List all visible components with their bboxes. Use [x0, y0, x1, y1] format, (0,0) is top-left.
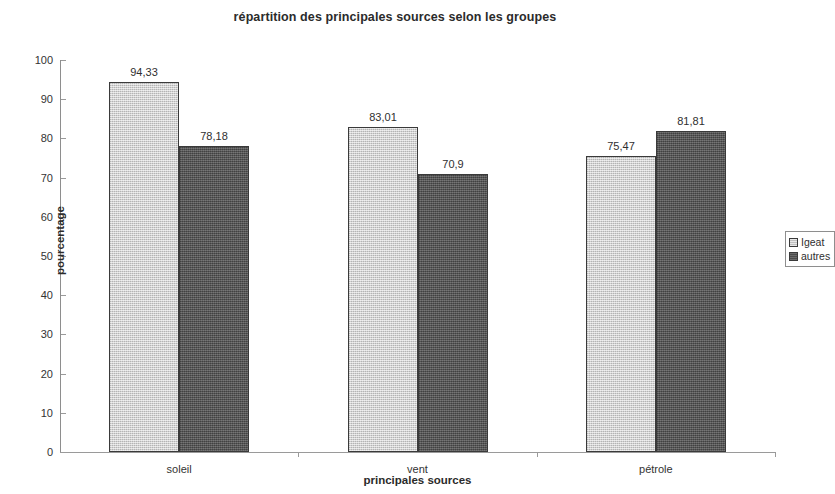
y-axis-tick-mark — [61, 334, 66, 335]
y-axis-tick-mark — [61, 99, 66, 100]
y-axis-tick-label: 90 — [41, 93, 53, 105]
bar[interactable]: 78,18 — [179, 146, 249, 452]
y-axis-tick-mark — [61, 374, 66, 375]
y-axis-tick-label: 50 — [41, 250, 53, 262]
y-axis-tick-label: 60 — [41, 211, 53, 223]
bar-value-label: 94,33 — [130, 66, 158, 78]
bar[interactable]: 75,47 — [586, 156, 656, 452]
bar-value-label: 83,01 — [369, 111, 397, 123]
category-separator — [775, 452, 776, 457]
chart-title: répartition des principales sources selo… — [0, 10, 790, 24]
bar[interactable]: 94,33 — [109, 82, 179, 452]
bar-value-label: 70,9 — [442, 158, 463, 170]
legend-swatch-icon — [789, 252, 798, 261]
category-separator — [537, 452, 538, 457]
y-axis-tick-label: 80 — [41, 132, 53, 144]
y-axis-tick-label: 30 — [41, 328, 53, 340]
legend-item-label: Igeat — [801, 236, 824, 248]
y-axis-tick-mark — [61, 413, 66, 414]
y-axis-tick-mark — [61, 138, 66, 139]
bar[interactable]: 83,01 — [348, 127, 418, 452]
y-axis-title: pourcentage — [54, 206, 66, 275]
legend-item[interactable]: autres — [789, 249, 830, 263]
y-axis-tick-label: 100 — [35, 54, 53, 66]
y-axis-tick-label: 40 — [41, 289, 53, 301]
legend: Igeat autres — [785, 231, 835, 267]
y-axis-tick-mark — [61, 452, 66, 453]
bar[interactable]: 70,9 — [418, 174, 488, 452]
category-separator — [298, 452, 299, 457]
legend-item-label: autres — [801, 250, 830, 262]
bar-value-label: 75,47 — [607, 140, 635, 152]
x-axis-line — [60, 452, 776, 453]
y-axis-tick-mark — [61, 60, 66, 61]
y-axis-tick-mark — [61, 178, 66, 179]
plot-area: 0102030405060708090100 94,3378,1883,0170… — [60, 60, 775, 452]
x-axis-title: principales sources — [60, 474, 775, 486]
y-axis-tick-label: 70 — [41, 172, 53, 184]
bar[interactable]: 81,81 — [656, 131, 726, 452]
y-axis-tick-label: 20 — [41, 368, 53, 380]
bar-value-label: 81,81 — [677, 115, 705, 127]
bar-value-label: 78,18 — [200, 130, 228, 142]
legend-item[interactable]: Igeat — [789, 235, 830, 249]
y-axis-tick-label: 10 — [41, 407, 53, 419]
legend-swatch-icon — [789, 238, 798, 247]
y-axis-tick-mark — [61, 295, 66, 296]
y-axis-tick-label: 0 — [47, 446, 53, 458]
